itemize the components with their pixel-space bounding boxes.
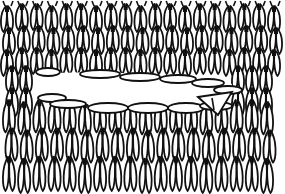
buttonhole bbox=[35, 68, 242, 115]
upper-fabric bbox=[1, 1, 282, 76]
knitting-buttonhole-diagram bbox=[0, 0, 285, 194]
lower-fabric bbox=[3, 100, 276, 193]
